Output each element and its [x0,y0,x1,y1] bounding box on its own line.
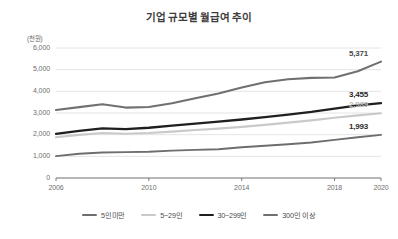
series-end-label: 2,989 [349,100,368,109]
legend-color-swatch [263,214,278,216]
x-tick-label: 2018 [315,184,355,191]
series-end-label: 1,993 [349,122,368,131]
legend-label: 300인 이상 [282,210,316,220]
y-tick-label: 0 [18,174,50,181]
x-tick-label: 2010 [129,184,169,191]
series-end-label: 3,455 [349,90,368,99]
legend-item[interactable]: 5인미만 [82,210,125,220]
y-tick-label: 2,000 [18,130,50,137]
legend-label: 5~29인 [160,210,182,220]
legend-item[interactable]: 5~29인 [141,210,182,220]
series-line [56,135,381,156]
y-tick-label: 5,000 [18,65,50,72]
legend-color-swatch [199,214,214,216]
legend-label: 5인미만 [101,210,125,220]
chart-container: 기업 규모별 월급여 추이 (천원) 01,0002,0003,0004,000… [0,0,398,239]
plot-area [0,0,398,239]
y-tick-label: 3,000 [18,109,50,116]
legend-color-swatch [82,214,97,216]
y-tick-label: 6,000 [18,44,50,51]
x-tick-label: 2014 [222,184,262,191]
legend-item[interactable]: 300인 이상 [263,210,316,220]
series-end-label: 5,371 [349,49,368,58]
chart-legend: 5인미만5~29인30~299인300인 이상 [0,210,398,220]
x-tick-label: 2006 [36,184,76,191]
series-line [56,113,381,137]
series-lines-group [56,62,381,156]
x-tick-label: 2020 [361,184,398,191]
legend-label: 30~299인 [218,210,248,220]
y-tick-label: 1,000 [18,152,50,159]
legend-color-swatch [141,214,156,216]
y-tick-label: 4,000 [18,87,50,94]
legend-item[interactable]: 30~299인 [199,210,248,220]
series-line [56,62,381,110]
